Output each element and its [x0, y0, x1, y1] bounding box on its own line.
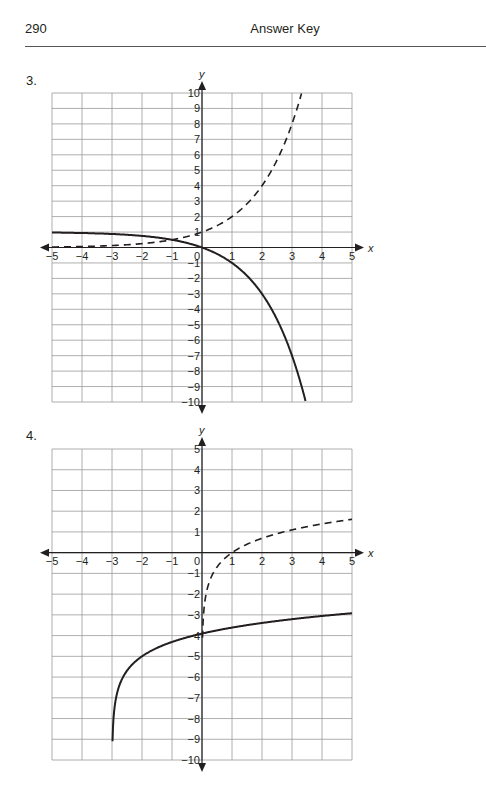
y-tick-label: 10 — [188, 87, 200, 99]
y-tick-label: −7 — [187, 692, 200, 704]
x-tick-label: −5 — [46, 250, 59, 262]
y-tick-label: −5 — [187, 650, 200, 662]
dashed-curve — [203, 519, 353, 637]
y-tick-label: 9 — [194, 102, 200, 114]
y-tick-label: 4 — [194, 464, 200, 476]
y-tick-label: −7 — [187, 350, 200, 362]
x-tick-label: −3 — [106, 555, 119, 567]
y-tick-label: −2 — [187, 272, 200, 284]
y-tick-label: 8 — [194, 118, 200, 130]
x-tick-label: −2 — [136, 555, 149, 567]
x-tick-label: −3 — [106, 250, 119, 262]
x-tick-label: −4 — [76, 250, 89, 262]
x-tick-label: 3 — [289, 555, 295, 567]
y-tick-label: 5 — [194, 443, 200, 455]
y-tick-label: −10 — [181, 396, 200, 408]
y-tick-label: −3 — [187, 288, 200, 300]
x-tick-label: 1 — [229, 555, 235, 567]
y-tick-label: −5 — [187, 319, 200, 331]
x-tick-label: −4 — [76, 555, 89, 567]
x-tick-label: −1 — [166, 250, 179, 262]
solid-curve — [52, 233, 306, 401]
y-tick-label: 2 — [194, 505, 200, 517]
x-tick-label: −1 — [166, 555, 179, 567]
y-tick-label: −6 — [187, 671, 200, 683]
y-tick-label: 2 — [194, 211, 200, 223]
y-tick-label: −1 — [187, 257, 200, 269]
y-tick-label: 6 — [194, 149, 200, 161]
y-tick-label: −6 — [187, 334, 200, 346]
y-tick-label: 3 — [194, 195, 200, 207]
arrow-right-icon — [355, 244, 364, 252]
x-tick-label: 4 — [319, 250, 325, 262]
x-tick-label: 0 — [194, 555, 200, 567]
x-tick-label: 2 — [259, 555, 265, 567]
x-tick-label: 5 — [349, 555, 355, 567]
y-tick-label: −8 — [187, 365, 200, 377]
y-tick-label: −10 — [181, 754, 200, 766]
x-axis-label: x — [367, 547, 374, 559]
y-tick-label: −2 — [187, 588, 200, 600]
y-tick-label: 1 — [194, 526, 200, 538]
y-axis-label: y — [198, 68, 206, 80]
x-tick-label: −2 — [136, 250, 149, 262]
y-tick-label: −9 — [187, 733, 200, 745]
arrow-right-icon — [355, 549, 364, 557]
graph-3: xy−5−4−3−2−1012345−10−9−8−7−6−5−4−3−2−11… — [40, 68, 374, 414]
x-tick-label: 1 — [229, 250, 235, 262]
y-tick-label: 7 — [194, 133, 200, 145]
y-tick-label: −1 — [187, 567, 200, 579]
x-axis-label: x — [367, 242, 374, 254]
x-tick-label: 4 — [319, 555, 325, 567]
x-tick-label: 2 — [259, 250, 265, 262]
y-tick-label: −9 — [187, 381, 200, 393]
y-axis-label: y — [198, 424, 206, 436]
x-tick-label: 3 — [289, 250, 295, 262]
y-tick-label: −3 — [187, 609, 200, 621]
y-tick-label: 4 — [194, 180, 200, 192]
y-tick-label: −8 — [187, 713, 200, 725]
graph-4: xy−5−4−3−2−1012345−10−9−8−7−6−5−4−3−2−11… — [40, 424, 374, 772]
y-tick-label: −4 — [187, 303, 200, 315]
y-tick-label: 3 — [194, 484, 200, 496]
x-tick-label: 5 — [349, 250, 355, 262]
y-tick-label: 5 — [194, 164, 200, 176]
y-tick-label: 1 — [194, 226, 200, 238]
graph-problem-3: xy−5−4−3−2−1012345−10−9−8−7−6−5−4−3−2−11… — [0, 0, 486, 808]
x-tick-label: −5 — [46, 555, 59, 567]
